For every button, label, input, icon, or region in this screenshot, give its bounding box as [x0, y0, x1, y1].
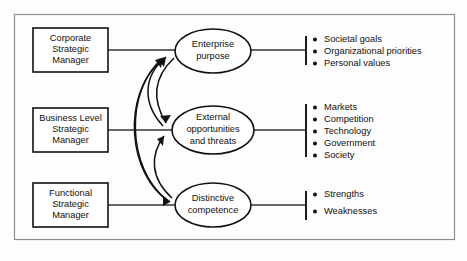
bullet-item: Personal values: [324, 58, 391, 68]
ellipse-external-opportunities-line2: opportunities: [186, 124, 240, 134]
ellipse-enterprise-purpose-line1: Enterprise: [192, 39, 234, 49]
bullet-item: Societal goals: [324, 34, 382, 44]
bullet-dot-icon: [313, 106, 317, 110]
bullet-dot-icon: [313, 62, 317, 66]
box-business-level[interactable]: Business Level Strategic Manager: [33, 108, 108, 152]
ellipse-distinctive-competence-line1: Distinctive: [192, 193, 234, 203]
bullet-item: Strengths: [324, 189, 364, 199]
bullet-dot-icon: [313, 130, 317, 134]
curve-enterprise-to-distinctive: [134, 62, 170, 202]
bullet-dot-icon: [313, 50, 317, 54]
box-business-level-line2: Strategic: [52, 124, 89, 134]
curve-distinctive-to-enterprise: [135, 58, 167, 200]
box-corporate-line2: Strategic: [52, 44, 89, 54]
ellipse-distinctive-competence[interactable]: Distinctive competence: [175, 183, 251, 227]
bullet-dot-icon: [313, 154, 317, 158]
ellipse-external-opportunities-line3: and threats: [190, 136, 237, 146]
box-functional-line2: Strategic: [52, 199, 89, 209]
bullet-dot-icon: [313, 193, 317, 197]
box-business-level-line3: Manager: [52, 135, 89, 145]
bullet-dot-icon: [313, 142, 317, 146]
bullet-item: Markets: [324, 102, 357, 112]
bullet-group-external-opportunities: Markets Competition Technology Governmen…: [306, 102, 376, 160]
box-functional-line1: Functional: [49, 188, 92, 198]
box-corporate-line3: Manager: [52, 55, 89, 65]
cross-link-curves: [134, 57, 174, 206]
box-corporate[interactable]: Corporate Strategic Manager: [33, 28, 108, 72]
strategy-diagram: Corporate Strategic Manager Business Lev…: [0, 0, 467, 261]
arrowhead-enterprise-to-external: [160, 115, 171, 123]
bullet-group-enterprise-purpose: Societal goals Organizational priorities…: [306, 34, 422, 68]
bullet-item: Society: [324, 150, 355, 160]
bullet-dot-icon: [313, 118, 317, 122]
ellipse-enterprise-purpose-line2: purpose: [196, 51, 230, 61]
bullet-dot-icon: [313, 210, 317, 214]
bullet-item: Technology: [324, 126, 371, 136]
bullet-item: Competition: [324, 114, 374, 124]
box-functional-line3: Manager: [52, 210, 89, 220]
box-corporate-line1: Corporate: [50, 33, 91, 43]
ellipse-distinctive-competence-line2: competence: [188, 205, 239, 215]
bullet-group-distinctive-competence: Strengths Weaknesses: [306, 189, 377, 220]
bullet-item: Organizational priorities: [324, 46, 422, 56]
ellipse-enterprise-purpose[interactable]: Enterprise purpose: [175, 29, 251, 73]
curve-enterprise-to-external: [157, 58, 174, 123]
ellipse-external-opportunities-line1: External: [196, 112, 230, 122]
bullet-dot-icon: [313, 38, 317, 42]
bullet-item: Government: [324, 138, 376, 148]
curve-distinctive-to-external: [154, 136, 172, 198]
bullet-item: Weaknesses: [324, 206, 377, 216]
box-functional[interactable]: Functional Strategic Manager: [33, 183, 108, 227]
box-business-level-line1: Business Level: [39, 113, 102, 123]
ellipse-external-opportunities[interactable]: External opportunities and threats: [172, 106, 254, 154]
